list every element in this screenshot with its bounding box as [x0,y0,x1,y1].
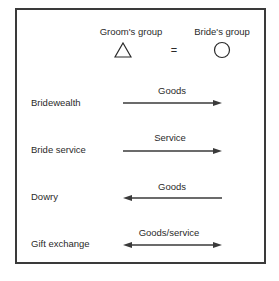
arrow-both-icon [123,242,222,248]
flow-arrows [0,0,279,281]
arrow-right-icon [123,100,222,106]
arrow-left-icon [123,195,222,201]
arrow-right-icon [123,148,222,154]
